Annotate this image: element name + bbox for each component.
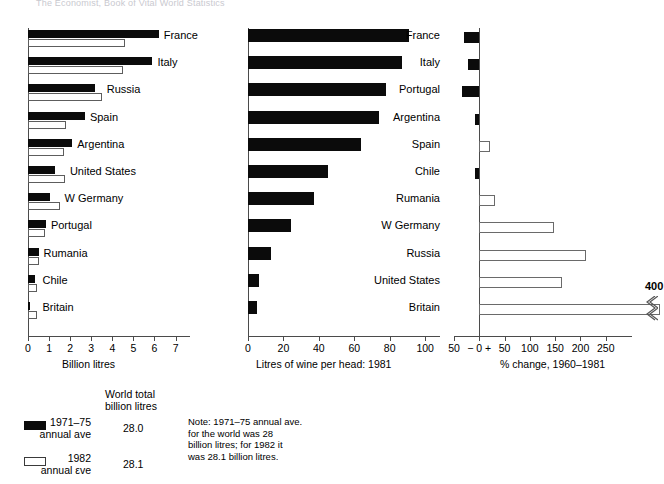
bar-light (28, 66, 123, 74)
x-axis-tick-label: 100 (518, 342, 542, 354)
x-axis-tick (91, 337, 92, 341)
category-label: United States (70, 165, 136, 177)
legend-world-total-header-line2: billion litres (105, 400, 157, 412)
x-axis-tick (454, 337, 455, 341)
x-axis-tick (555, 337, 556, 341)
figure-legend: World total billion litres 1971–75 annua… (0, 372, 664, 484)
category-label: Rumania (366, 192, 440, 204)
category-label: Chile (42, 274, 67, 286)
category-label: Portugal (366, 83, 440, 95)
bar-dark (28, 275, 35, 283)
legend-world-total-1971-75: 28.0 (123, 422, 143, 434)
bar-dark (248, 111, 379, 124)
legend-label-1971-75-line2: annual ave (0, 428, 105, 440)
bar-dark (248, 219, 291, 232)
bar-dark (28, 57, 152, 65)
x-axis-tick (319, 337, 320, 341)
chart-panel-percent-change: 50− 0 +50100150200250% change, 1960–1981… (452, 0, 664, 372)
axis-break-zigzag-icon (644, 296, 658, 322)
legend-note: Note: 1971–75 annual ave. for the world … (188, 416, 302, 462)
category-label: France (366, 29, 440, 41)
x-axis-tick (580, 337, 581, 341)
x-axis-tick-label: 7 (164, 342, 188, 354)
x-axis-tick-label: 0 (236, 342, 260, 354)
x-axis-tick (176, 337, 177, 341)
bar-dark (28, 302, 30, 310)
y-axis-line (248, 28, 249, 336)
chart-panel-billion-litres: 01234567Billion litresFranceItalyRussiaS… (0, 0, 228, 372)
category-label: United States (366, 274, 440, 286)
bar-dark (28, 220, 46, 228)
x-axis-line (28, 336, 190, 337)
bar-dark (28, 193, 50, 201)
x-axis-line (248, 336, 440, 337)
bar-dark (248, 247, 271, 260)
category-label: Russia (107, 83, 141, 95)
bar-dark (28, 248, 39, 256)
bar-negative (475, 114, 479, 125)
bar-dark (248, 301, 257, 314)
bar-light (28, 284, 37, 292)
bar-negative (468, 59, 479, 70)
x-axis-tick-label: 250 (594, 342, 618, 354)
bar-positive (479, 195, 495, 206)
x-axis-tick-label: 100 (413, 342, 437, 354)
x-axis-tick (112, 337, 113, 341)
category-label: Portugal (51, 219, 92, 231)
category-label: Chile (366, 165, 440, 177)
x-axis-tick-label: 80 (378, 342, 402, 354)
x-axis-tick (606, 337, 607, 341)
x-axis-tick (354, 337, 355, 341)
category-label: Russia (366, 247, 440, 259)
bar-dark (248, 165, 328, 178)
x-axis-tick-label: 50 (442, 342, 466, 354)
x-axis-tick (530, 337, 531, 341)
category-label: W Germany (366, 219, 440, 231)
x-axis-tick-label: 40 (307, 342, 331, 354)
bar-positive (479, 250, 585, 261)
bar-negative (475, 168, 479, 179)
bar-positive (479, 304, 660, 315)
x-axis-tick-label: 200 (568, 342, 592, 354)
bar-light (28, 257, 39, 265)
bar-light (28, 93, 102, 101)
bar-positive (479, 222, 554, 233)
category-label: Spain (90, 111, 118, 123)
bar-dark (28, 166, 55, 174)
bar-dark (248, 274, 259, 287)
x-axis-title: Billion litres (62, 358, 115, 370)
bar-dark (248, 192, 314, 205)
bar-light (28, 202, 60, 210)
bar-light (28, 229, 45, 237)
legend-label-1971-75-line1: 1971–75 (0, 416, 105, 428)
x-axis-tick (28, 337, 29, 341)
x-axis-title: % change, 1960–1981 (500, 358, 605, 370)
legend-label-1982-line1: 1982 (0, 452, 105, 464)
x-axis-tick-label: 150 (543, 342, 567, 354)
x-axis-tick (248, 337, 249, 341)
x-axis-tick (49, 337, 50, 341)
y-axis-line (479, 28, 480, 336)
x-axis-tick (505, 337, 506, 341)
category-label: Argentina (366, 111, 440, 123)
bar-negative (464, 32, 479, 43)
bar-light (28, 311, 37, 319)
category-label: Italy (157, 56, 177, 68)
bar-dark (28, 139, 72, 147)
category-label: Argentina (77, 138, 124, 150)
legend-label-1982-line2: annual εve (0, 464, 105, 476)
bar-negative (462, 86, 480, 97)
x-axis-tick-label: 50 (493, 342, 517, 354)
legend-world-total-header-line1: World total (105, 388, 155, 400)
bar-dark (28, 84, 95, 92)
bar-dark (248, 138, 361, 151)
bar-light (28, 175, 65, 183)
x-axis-tick (154, 337, 155, 341)
bar-light (28, 39, 125, 47)
x-axis-tick (133, 337, 134, 341)
x-axis-tick (390, 337, 391, 341)
bar-light (28, 121, 66, 129)
bar-positive (479, 141, 490, 152)
x-axis-tick-label: 20 (271, 342, 295, 354)
category-label: Britain (42, 301, 73, 313)
